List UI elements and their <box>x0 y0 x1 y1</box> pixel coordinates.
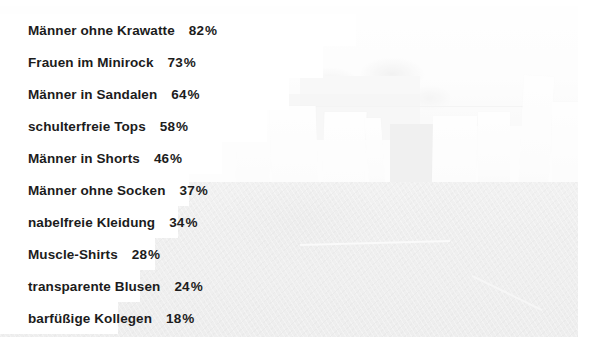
percent-sign: % <box>191 279 203 294</box>
chart-row-value-number: 28 <box>132 247 147 262</box>
chart-row: Muscle-Shirts28% <box>0 238 160 270</box>
chart-row-label: Männer in Shorts <box>28 151 140 166</box>
chart-row: transparente Blusen24% <box>0 270 203 302</box>
chart-row: Frauen im Minirock73% <box>0 46 196 78</box>
chart-row-label: Männer ohne Socken <box>28 183 166 198</box>
chart-row-value-number: 37 <box>180 183 195 198</box>
chart-row-value-number: 18 <box>166 311 181 326</box>
chart-row-value-number: 58 <box>160 119 175 134</box>
chart-row: Männer ohne Krawatte82% <box>0 14 217 46</box>
bar-chart-rows: Männer ohne Krawatte82%Frauen im Miniroc… <box>0 0 600 356</box>
chart-row-value-number: 46 <box>154 151 169 166</box>
chart-row-value: 82% <box>189 23 217 38</box>
chart-row: Männer in Sandalen64% <box>0 78 200 110</box>
chart-row-value: 24% <box>174 279 202 294</box>
infographic-canvas: Männer ohne Krawatte82%Frauen im Miniroc… <box>0 0 600 356</box>
chart-row-label: Männer ohne Krawatte <box>28 23 175 38</box>
chart-row-value: 46% <box>154 151 182 166</box>
chart-row-label: schulterfreie Tops <box>28 119 146 134</box>
chart-row-value: 73% <box>168 55 196 70</box>
chart-row-label: Männer in Sandalen <box>28 87 157 102</box>
chart-row: schulterfreie Tops58% <box>0 110 188 142</box>
chart-row-value: 18% <box>166 311 194 326</box>
chart-row-value: 28% <box>132 247 160 262</box>
percent-sign: % <box>188 87 200 102</box>
percent-sign: % <box>196 183 208 198</box>
chart-row-value: 37% <box>180 183 208 198</box>
chart-row-value-number: 34 <box>169 215 184 230</box>
chart-row-label: Frauen im Minirock <box>28 55 154 70</box>
chart-row: barfüßige Kollegen18% <box>0 302 194 334</box>
chart-row-label: barfüßige Kollegen <box>28 311 152 326</box>
chart-row-value-number: 24 <box>174 279 189 294</box>
chart-row-label: Muscle-Shirts <box>28 247 118 262</box>
chart-row: Männer in Shorts46% <box>0 142 182 174</box>
percent-sign: % <box>185 215 197 230</box>
percent-sign: % <box>184 55 196 70</box>
percent-sign: % <box>170 151 182 166</box>
chart-row-label: nabelfreie Kleidung <box>28 215 155 230</box>
chart-row-value-number: 82 <box>189 23 204 38</box>
chart-row-value-number: 73 <box>168 55 183 70</box>
percent-sign: % <box>148 247 160 262</box>
chart-row-value-number: 64 <box>171 87 186 102</box>
chart-row-value: 34% <box>169 215 197 230</box>
chart-row-label: transparente Blusen <box>28 279 160 294</box>
chart-row: Männer ohne Socken37% <box>0 174 208 206</box>
percent-sign: % <box>176 119 188 134</box>
chart-row-value: 64% <box>171 87 199 102</box>
percent-sign: % <box>205 23 217 38</box>
chart-row-value: 58% <box>160 119 188 134</box>
percent-sign: % <box>182 311 194 326</box>
chart-row: nabelfreie Kleidung34% <box>0 206 198 238</box>
